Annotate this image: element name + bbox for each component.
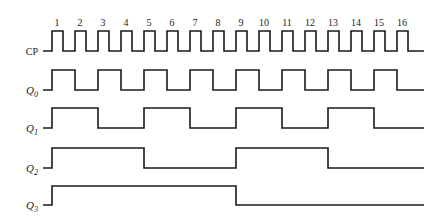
pulse-number-8: 8 (216, 17, 221, 28)
pulse-number-4: 4 (124, 17, 129, 28)
signal-label-q1: Q1 (26, 122, 38, 137)
pulse-number-13: 13 (328, 17, 338, 28)
pulse-number-16: 16 (397, 17, 407, 28)
pulse-number-12: 12 (305, 17, 315, 28)
waveform-q2 (43, 148, 424, 168)
pulse-number-10: 10 (259, 17, 269, 28)
timing-diagram: 12345678910111213141516 CPQ0Q1Q2Q3 (0, 0, 447, 223)
waveform-q3 (43, 186, 424, 205)
waveforms (43, 31, 424, 205)
pulse-number-2: 2 (78, 17, 83, 28)
pulse-number-3: 3 (101, 17, 106, 28)
waveform-q1 (43, 108, 424, 128)
pulse-number-labels: 12345678910111213141516 (55, 17, 408, 28)
pulse-number-11: 11 (282, 17, 292, 28)
pulse-number-9: 9 (239, 17, 244, 28)
pulse-number-15: 15 (374, 17, 384, 28)
pulse-number-1: 1 (55, 17, 60, 28)
pulse-number-14: 14 (351, 17, 361, 28)
signal-label-q3: Q3 (26, 199, 38, 214)
signal-label-cp: CP (26, 46, 39, 57)
signal-labels: CPQ0Q1Q2Q3 (26, 46, 39, 214)
pulse-number-5: 5 (147, 17, 152, 28)
pulse-number-7: 7 (193, 17, 198, 28)
waveform-q0 (43, 70, 424, 90)
pulse-number-6: 6 (170, 17, 175, 28)
signal-label-q2: Q2 (26, 162, 38, 177)
signal-label-q0: Q0 (26, 84, 38, 99)
waveform-cp (43, 31, 424, 51)
